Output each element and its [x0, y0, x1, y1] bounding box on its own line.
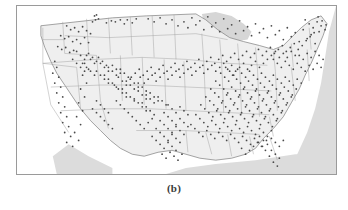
station-point [231, 24, 233, 26]
station-point [220, 114, 222, 116]
station-point [161, 100, 163, 102]
station-point [129, 78, 131, 80]
station-point [84, 62, 86, 64]
station-point [233, 104, 235, 106]
station-point [313, 32, 315, 34]
station-point [60, 35, 62, 37]
us-map [17, 6, 336, 174]
station-point [271, 96, 273, 98]
station-point [240, 82, 242, 84]
station-point [250, 143, 252, 145]
station-point [293, 43, 295, 45]
station-point [254, 102, 256, 104]
station-point [127, 76, 129, 78]
station-point [300, 82, 302, 84]
station-point [257, 78, 259, 80]
station-point [84, 37, 86, 39]
station-point [165, 23, 167, 25]
station-point [265, 76, 267, 78]
station-point [92, 21, 94, 23]
station-point [247, 92, 249, 94]
figure-caption: (b) [0, 182, 348, 194]
station-point [123, 72, 125, 74]
station-point [142, 74, 144, 76]
station-point [108, 112, 110, 114]
station-point [255, 90, 257, 92]
station-point [58, 102, 60, 104]
station-point [177, 159, 179, 161]
station-point [324, 29, 326, 31]
station-point [171, 74, 173, 76]
station-point [248, 80, 250, 82]
station-point [249, 70, 251, 72]
station-point [190, 66, 192, 68]
station-point [211, 64, 213, 66]
station-point [244, 86, 246, 88]
station-point [272, 84, 274, 86]
station-point [179, 141, 181, 143]
station-point [274, 34, 276, 36]
station-point [258, 106, 260, 108]
station-point [86, 82, 88, 84]
station-point [304, 19, 306, 21]
station-point [112, 64, 114, 66]
station-point [82, 110, 84, 112]
station-point [78, 140, 80, 142]
station-point [229, 70, 231, 72]
station-point [96, 60, 98, 62]
station-point [276, 118, 278, 120]
station-point [153, 21, 155, 23]
station-point [149, 110, 151, 112]
station-point [141, 102, 143, 104]
station-point [54, 60, 56, 62]
station-point [169, 151, 171, 153]
station-point [165, 157, 167, 159]
station-point [308, 64, 310, 66]
station-point [137, 86, 139, 88]
station-point [296, 62, 298, 64]
station-point [88, 53, 90, 55]
station-point [207, 16, 209, 18]
station-point [263, 62, 265, 64]
station-point [219, 84, 221, 86]
station-point [147, 18, 149, 20]
station-point [243, 30, 245, 32]
station-point [271, 130, 273, 132]
station-point [318, 31, 320, 33]
station-point [60, 112, 62, 114]
station-point [225, 66, 227, 68]
station-point [206, 60, 208, 62]
station-point [272, 161, 274, 163]
station-point [76, 116, 78, 118]
station-point [199, 118, 201, 120]
station-point [187, 27, 189, 29]
station-point [186, 60, 188, 62]
station-point [238, 96, 240, 98]
station-point [100, 74, 102, 76]
station-point [96, 14, 98, 16]
station-point [68, 126, 70, 128]
station-point [314, 43, 316, 45]
station-point [215, 70, 217, 72]
station-point [234, 53, 236, 55]
station-point [187, 68, 189, 70]
station-point [263, 28, 265, 30]
station-point [276, 165, 278, 167]
station-point [145, 90, 147, 92]
station-point [112, 82, 114, 84]
station-point [170, 66, 172, 68]
station-point [298, 41, 300, 43]
station-point [274, 100, 276, 102]
station-point [244, 118, 246, 120]
station-point [232, 74, 234, 76]
station-point [310, 56, 312, 58]
station-point [239, 128, 241, 130]
station-point [269, 80, 271, 82]
station-point [287, 90, 289, 92]
station-point [207, 126, 209, 128]
station-point [52, 72, 54, 74]
station-point [218, 96, 220, 98]
station-point [64, 106, 66, 108]
station-point [161, 153, 163, 155]
station-point [305, 40, 307, 42]
